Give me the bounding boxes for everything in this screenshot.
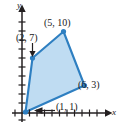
point-label-2-7: (2, 7) [16, 33, 38, 43]
x-axis-arrow [105, 109, 113, 117]
quadrilateral-shape [26, 32, 85, 113]
y-axis-arrow [18, 5, 25, 13]
vertex-dot-5-10 [61, 29, 66, 34]
point-label-1-1: (1, 1) [56, 102, 78, 112]
vertex-dot-1-1 [23, 109, 28, 114]
point-label-6-3: (6, 3) [78, 80, 100, 90]
point-label-5-10: (5, 10) [44, 18, 71, 28]
